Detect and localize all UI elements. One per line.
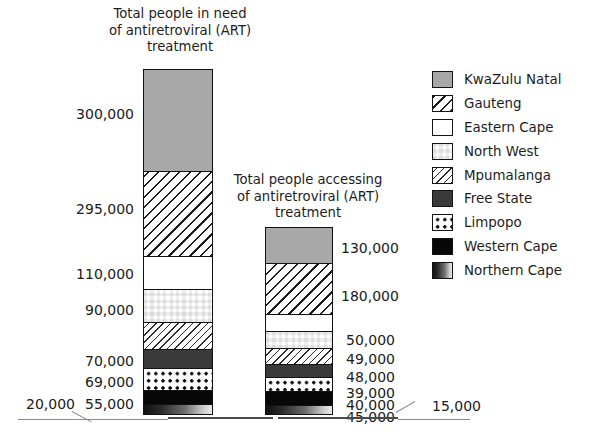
- legend: KwaZulu Natal Gauteng Eastern Cape North…: [432, 68, 592, 282]
- segment-kwazulu-natal: [266, 228, 332, 264]
- leader-line-northern-cape-need-diagonal: [72, 411, 92, 422]
- legend-label-mpumalanga: Mpumalanga: [464, 168, 551, 183]
- bar-title-need: Total people in need of antiretroviral (…: [82, 6, 278, 56]
- segment-north-west: [266, 332, 332, 349]
- leader-line-northern-cape-access-diagonal: [396, 401, 416, 413]
- legend-swatch-western-cape-icon: [432, 238, 453, 255]
- value-label-need-eastern-cape: 110,000: [37, 266, 134, 282]
- segment-limpopo: [144, 369, 212, 391]
- segment-western-cape: [144, 391, 212, 405]
- value-label-access-eastern-cape: 50,000: [346, 332, 395, 348]
- bar-title-access: Total people accessing of antiretroviral…: [218, 172, 398, 222]
- value-label-need-northern-cape: 20,000: [0, 396, 75, 412]
- legend-item-mpumalanga: Mpumalanga: [432, 163, 592, 187]
- segment-northern-cape: [266, 406, 332, 414]
- leader-line-northern-cape-need: [18, 419, 168, 420]
- legend-swatch-north-west-icon: [432, 143, 453, 160]
- legend-swatch-kwazulu-natal-icon: [432, 71, 453, 88]
- stacked-bar-chart: Total people in need of antiretroviral (…: [0, 0, 595, 443]
- legend-swatch-gauteng-icon: [432, 95, 453, 112]
- legend-label-western-cape: Western Cape: [464, 239, 557, 254]
- segment-mpumalanga: [144, 323, 212, 351]
- value-label-access-north-west: 49,000: [346, 351, 395, 367]
- legend-item-kwazulu-natal: KwaZulu Natal: [432, 68, 592, 92]
- segment-gauteng: [266, 264, 332, 315]
- legend-swatch-northern-cape-icon: [432, 262, 453, 279]
- leader-line-northern-cape-access: [398, 419, 470, 420]
- segment-eastern-cape: [266, 315, 332, 332]
- segment-limpopo: [266, 378, 332, 392]
- legend-item-northern-cape: Northern Cape: [432, 258, 592, 282]
- legend-label-kwazulu-natal: KwaZulu Natal: [464, 72, 561, 87]
- legend-item-free-state: Free State: [432, 187, 592, 211]
- value-label-need-free-state: 69,000: [37, 374, 134, 390]
- legend-label-north-west: North West: [464, 144, 539, 159]
- value-label-access-kwazulu-natal: 130,000: [341, 240, 399, 256]
- legend-item-gauteng: Gauteng: [432, 92, 592, 116]
- legend-label-limpopo: Limpopo: [464, 215, 522, 230]
- segment-eastern-cape: [144, 257, 212, 290]
- legend-item-western-cape: Western Cape: [432, 235, 592, 259]
- value-label-need-mpumalanga: 70,000: [37, 353, 134, 369]
- baseline-right: [278, 417, 398, 419]
- legend-swatch-eastern-cape-icon: [432, 119, 453, 136]
- legend-label-gauteng: Gauteng: [464, 96, 522, 111]
- segment-free-state: [266, 365, 332, 378]
- segment-free-state: [144, 350, 212, 369]
- segment-northern-cape: [144, 405, 212, 414]
- legend-swatch-mpumalanga-icon: [432, 167, 453, 184]
- value-label-need-kwazulu-natal: 300,000: [37, 106, 134, 122]
- legend-swatch-limpopo-icon: [432, 214, 453, 231]
- legend-label-eastern-cape: Eastern Cape: [464, 120, 553, 135]
- legend-swatch-free-state-icon: [432, 190, 453, 207]
- value-label-access-northern-cape: 15,000: [432, 398, 481, 414]
- segment-north-west: [144, 290, 212, 323]
- bar-people-accessing: [265, 227, 333, 415]
- legend-label-free-state: Free State: [464, 191, 532, 206]
- segment-mpumalanga: [266, 349, 332, 365]
- legend-item-limpopo: Limpopo: [432, 211, 592, 235]
- value-label-access-mpumalanga: 48,000: [346, 369, 395, 385]
- bar-people-in-need: [143, 69, 213, 415]
- value-label-access-gauteng: 180,000: [341, 288, 399, 304]
- legend-label-northern-cape: Northern Cape: [464, 263, 562, 278]
- segment-western-cape: [266, 392, 332, 406]
- legend-item-eastern-cape: Eastern Cape: [432, 116, 592, 140]
- value-label-need-gauteng: 295,000: [37, 201, 134, 217]
- value-label-need-north-west: 90,000: [37, 302, 134, 318]
- segment-kwazulu-natal: [144, 70, 212, 172]
- segment-gauteng: [144, 172, 212, 257]
- legend-item-north-west: North West: [432, 139, 592, 163]
- baseline-left: [168, 417, 273, 419]
